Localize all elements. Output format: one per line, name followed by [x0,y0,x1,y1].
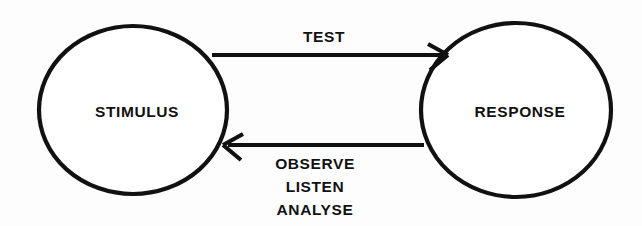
diagram-canvas: STIMULUS RESPONSE TEST OBSERVE LISTEN AN… [0,0,642,226]
stimulus-node-label: STIMULUS [95,103,179,121]
test-arrow-label: TEST [303,28,345,46]
feedback-arrow-label-listen: LISTEN [286,178,345,196]
feedback-arrow-label-observe: OBSERVE [275,155,355,173]
response-node-label: RESPONSE [475,103,566,121]
test-arrow[interactable] [212,44,448,70]
feedback-arrow-label-analyse: ANALYSE [277,201,354,219]
